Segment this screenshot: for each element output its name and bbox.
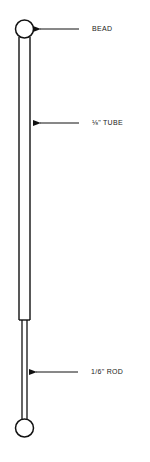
- rod: [22, 320, 27, 420]
- bottom-bead: [16, 419, 34, 437]
- tube: [19, 37, 30, 320]
- tube-label: ⅛" TUBE: [92, 119, 123, 127]
- bead-tube-rod-diagram: [0, 0, 150, 462]
- bead-label: BEAD: [92, 25, 112, 33]
- top-bead: [16, 20, 34, 38]
- rod-label: 1/6" ROD: [91, 368, 123, 376]
